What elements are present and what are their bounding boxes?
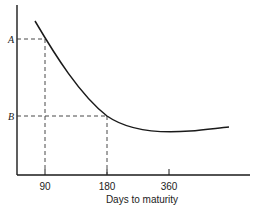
x-tick-label-90: 90 xyxy=(39,181,51,192)
yield-curve-line xyxy=(35,21,229,132)
x-axis-title: Days to maturity xyxy=(106,194,178,205)
chart-canvas: A B 90 180 360 Days to maturity xyxy=(0,0,255,207)
level-a-label: A xyxy=(7,34,15,45)
x-tick-label-360: 360 xyxy=(161,181,178,192)
x-tick-label-180: 180 xyxy=(99,181,116,192)
level-b-label: B xyxy=(8,111,14,122)
